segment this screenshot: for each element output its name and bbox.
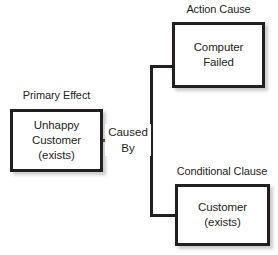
- connector-spine-to-conditional-clause: [150, 214, 177, 217]
- node-conditional-clause[interactable]: Customer (exists): [175, 184, 270, 246]
- node-primary-effect-line-2: Customer: [32, 133, 81, 148]
- edge-label-line-2: By: [105, 140, 151, 156]
- edge-label-line-1: Caused: [105, 124, 151, 140]
- caption-action-cause: Action Cause: [172, 3, 265, 16]
- connector-spine-to-action-cause: [150, 65, 174, 68]
- node-primary-effect-line-1: Unhappy: [34, 118, 79, 133]
- node-action-cause[interactable]: Computer Failed: [172, 22, 265, 88]
- caption-primary-effect: Primary Effect: [10, 89, 103, 102]
- node-conditional-clause-line-1: Customer: [198, 200, 247, 215]
- node-action-cause-line-2: Failed: [203, 55, 234, 70]
- node-conditional-clause-line-2: (exists): [204, 215, 240, 230]
- edge-label-caused-by: Caused By: [105, 124, 151, 156]
- cause-effect-diagram: Caused By Primary Effect Unhappy Custome…: [0, 0, 278, 255]
- caption-conditional-clause: Conditional Clause: [172, 165, 272, 178]
- node-action-cause-line-1: Computer: [194, 40, 244, 55]
- node-primary-effect[interactable]: Unhappy Customer (exists): [10, 109, 103, 172]
- node-primary-effect-line-3: (exists): [38, 148, 74, 163]
